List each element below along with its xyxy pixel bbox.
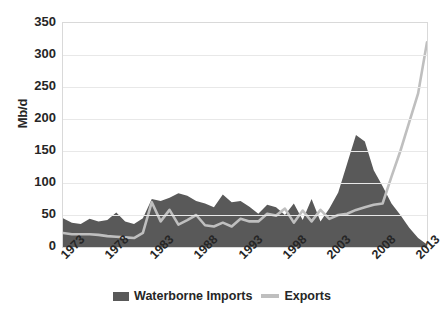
gridline xyxy=(63,87,427,88)
gridline xyxy=(63,55,427,56)
legend-label: Waterborne Imports xyxy=(134,289,252,303)
legend-label: Exports xyxy=(284,289,331,303)
legend-item[interactable]: Waterborne Imports xyxy=(113,289,252,303)
plot-area xyxy=(62,22,428,248)
legend-area-swatch-icon xyxy=(113,292,129,301)
chart-legend: Waterborne ImportsExports xyxy=(0,286,444,306)
gridline xyxy=(63,119,427,120)
y-tick-label: 250 xyxy=(16,78,56,93)
y-tick-label: 350 xyxy=(16,14,56,29)
y-tick-label: 150 xyxy=(16,142,56,157)
y-tick-label: 200 xyxy=(16,110,56,125)
chart-container: Mb/d 350300250200150100500 1973197819831… xyxy=(0,0,444,312)
gridline xyxy=(63,151,427,152)
y-tick-label: 50 xyxy=(16,206,56,221)
chart-canvas xyxy=(63,23,427,247)
y-tick-label: 100 xyxy=(16,174,56,189)
y-tick-label: 300 xyxy=(16,46,56,61)
gridline xyxy=(63,215,427,216)
gridline xyxy=(63,183,427,184)
legend-line-swatch-icon xyxy=(261,294,279,298)
legend-item[interactable]: Exports xyxy=(261,289,331,303)
